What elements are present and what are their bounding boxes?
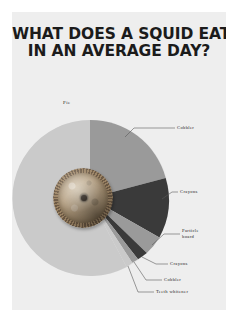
poster-frame [0,0,238,322]
poster: WHAT DOES A SQUID EAT IN AN AVERAGE DAY? [0,0,238,322]
